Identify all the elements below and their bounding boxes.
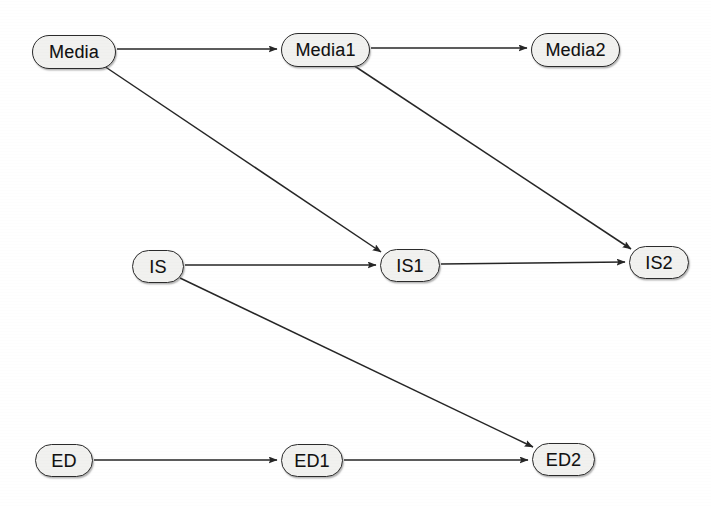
path-diagram-canvas: MediaMedia1Media2ISIS1IS2EDED1ED2 <box>0 0 711 506</box>
node-media[interactable]: Media <box>32 35 116 69</box>
edge-media1-is2 <box>353 65 631 249</box>
edge-media-is1 <box>104 66 381 252</box>
edge-is-ed2 <box>180 278 533 447</box>
node-media2[interactable]: Media2 <box>531 33 620 67</box>
node-ed2[interactable]: ED2 <box>532 443 595 476</box>
edge-is1-is2 <box>441 262 625 264</box>
node-label-media: Media <box>49 43 99 61</box>
node-label-media2: Media2 <box>545 41 605 59</box>
node-label-media1: Media1 <box>295 41 355 59</box>
node-is1[interactable]: IS1 <box>380 249 440 282</box>
node-label-ed: ED <box>51 452 76 470</box>
node-label-is1: IS1 <box>396 257 424 275</box>
node-label-is: IS <box>149 258 166 276</box>
node-media1[interactable]: Media1 <box>281 33 370 67</box>
node-label-is2: IS2 <box>645 254 673 272</box>
node-label-ed1: ED1 <box>294 452 330 470</box>
node-is2[interactable]: IS2 <box>629 246 689 279</box>
edge-layer <box>0 0 711 506</box>
node-ed[interactable]: ED <box>35 444 93 477</box>
node-is[interactable]: IS <box>132 250 184 283</box>
node-label-ed2: ED2 <box>546 451 582 469</box>
node-ed1[interactable]: ED1 <box>281 444 343 477</box>
